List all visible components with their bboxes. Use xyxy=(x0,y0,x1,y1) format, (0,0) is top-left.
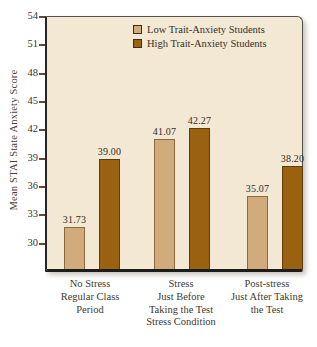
legend-label-low: Low Trait-Anxiety Students xyxy=(147,24,265,35)
y-tick-label: 36 xyxy=(10,180,38,191)
legend-item-low: Low Trait-Anxiety Students xyxy=(133,22,267,36)
bar-chart-figure: Mean STAI State Anxiety Score 3033363942… xyxy=(0,0,317,347)
x-category-2: Post-stressJust After Takingthe Test xyxy=(209,277,317,316)
bar-value-label: 38.20 xyxy=(270,153,315,164)
x-category-line: Just After Taking xyxy=(209,290,317,303)
legend-swatch-low-icon xyxy=(133,25,142,34)
y-tick-label: 42 xyxy=(10,123,38,134)
y-tick-label: 33 xyxy=(10,208,38,219)
legend-item-high: High Trait-Anxiety Students xyxy=(133,36,267,50)
bar-value-label: 41.07 xyxy=(142,126,187,137)
bar-high-group-1 xyxy=(189,128,210,269)
bar-low-group-0 xyxy=(64,227,85,269)
legend-label-high: High Trait-Anxiety Students xyxy=(147,38,267,49)
plot-area: Low Trait-Anxiety Students High Trait-An… xyxy=(45,16,303,272)
bar-high-group-0 xyxy=(99,159,120,269)
bar-value-label: 31.73 xyxy=(52,214,97,225)
bar-low-group-2 xyxy=(247,196,268,269)
y-tick-label: 30 xyxy=(10,237,38,248)
x-axis-title: Stress Condition xyxy=(121,316,241,327)
bar-value-label: 35.07 xyxy=(235,183,280,194)
y-tick-label: 54 xyxy=(10,10,38,21)
y-tick-label: 51 xyxy=(10,38,38,49)
x-category-line: Post-stress xyxy=(209,277,317,290)
y-tick-label: 39 xyxy=(10,152,38,163)
bar-value-label: 39.00 xyxy=(87,146,132,157)
bar-value-label: 42.27 xyxy=(177,115,222,126)
y-tick-label: 48 xyxy=(10,67,38,78)
y-tick-label: 45 xyxy=(10,95,38,106)
bar-low-group-1 xyxy=(154,139,175,269)
legend: Low Trait-Anxiety Students High Trait-An… xyxy=(133,22,267,50)
legend-swatch-high-icon xyxy=(133,39,142,48)
bar-high-group-2 xyxy=(282,166,303,269)
x-category-line: the Test xyxy=(209,303,317,316)
